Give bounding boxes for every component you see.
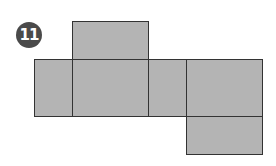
net-face-front (72, 59, 149, 117)
net-face-bottom (186, 116, 263, 155)
net-face-right (148, 59, 187, 117)
net-face-back (186, 59, 263, 117)
net-face-top (72, 21, 149, 60)
problem-number-badge: 11 (16, 22, 42, 48)
net-face-left (34, 59, 73, 117)
